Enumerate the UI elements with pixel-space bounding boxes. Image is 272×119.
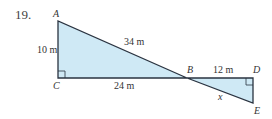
side-be-label: x <box>218 92 222 102</box>
triangle-diagram <box>0 0 272 119</box>
problem-number: 19. <box>15 8 31 21</box>
side-bd-label: 12 m <box>213 65 233 75</box>
side-cb-label: 24 m <box>114 81 134 91</box>
vertex-b-label: B <box>187 65 193 75</box>
side-ab-label: 34 m <box>124 37 144 47</box>
triangle-abc <box>58 21 187 78</box>
vertex-d-label: D <box>253 65 260 75</box>
vertex-c-label: C <box>53 81 60 91</box>
vertex-a-label: A <box>53 9 59 19</box>
vertex-e-label: E <box>254 106 260 116</box>
side-ac-label: 10 m <box>37 45 57 55</box>
